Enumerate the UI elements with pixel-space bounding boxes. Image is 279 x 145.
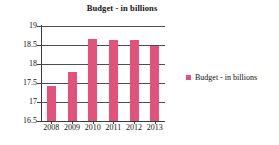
y-axis-tick-label: 18.5 (1, 41, 37, 49)
bar (109, 40, 118, 121)
y-axis-tick-label: 19 (1, 22, 37, 30)
bar (47, 86, 56, 121)
chart-legend: Budget - in billions (186, 73, 257, 82)
chart-title: Budget - in billions (52, 3, 192, 14)
y-tick-label-wrap: 18 (0, 60, 37, 68)
y-axis-tick-label: 18 (1, 60, 37, 68)
y-tick-label-wrap: 16.5 (0, 117, 37, 125)
bar (68, 72, 77, 121)
y-tick-label-wrap: 19 (0, 22, 37, 30)
bar (130, 40, 139, 121)
x-axis-tick-label: 2013 (143, 123, 167, 132)
y-axis-tick-label: 16.5 (1, 117, 37, 125)
bars-container (41, 26, 165, 121)
y-tick-label-wrap: 17.5 (0, 79, 37, 87)
x-axis-line (41, 121, 165, 122)
bar-chart: Budget - in billions 1918.51817.51716.5 … (0, 0, 279, 145)
y-tick-label-wrap: 17 (0, 98, 37, 106)
y-axis-tick-label: 17.5 (1, 79, 37, 87)
legend-swatch-icon (186, 75, 191, 80)
bar (88, 39, 97, 121)
legend-label: Budget - in billions (195, 73, 257, 82)
y-tick-label-wrap: 18.5 (0, 41, 37, 49)
bar (150, 46, 159, 121)
y-axis-tick-label: 17 (1, 98, 37, 106)
